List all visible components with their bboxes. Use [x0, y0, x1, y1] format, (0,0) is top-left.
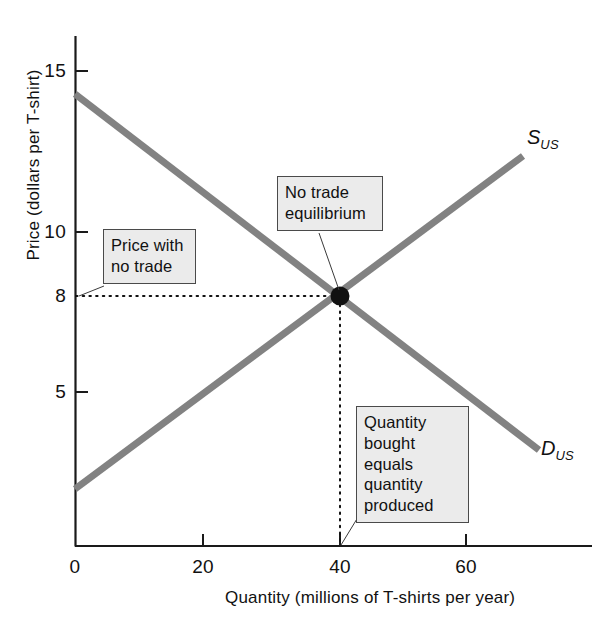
callout-price-with-no-trade: Price with no trade — [103, 229, 196, 284]
callout-price-no-trade-line2: no trade — [111, 256, 188, 277]
callout-qty-bought-line4: produced — [364, 495, 461, 516]
x-tick-label-20: 20 — [183, 556, 223, 578]
leader-line-price-no-trade — [79, 286, 104, 296]
demand-curve-label-sub: US — [555, 448, 573, 463]
callout-quantity-bought-equals-produced: Quantity bought equals quantity produced — [356, 406, 469, 523]
x-tick-label-0: 0 — [55, 556, 95, 578]
callout-price-no-trade-line1: Price with — [111, 235, 188, 256]
y-tick-label-8: 8 — [32, 285, 66, 307]
chart-canvas — [0, 0, 595, 617]
callout-no-trade-eq-line1: No trade — [285, 182, 375, 203]
supply-curve-label: SUS — [527, 126, 559, 152]
callout-qty-bought-line1: Quantity — [364, 412, 461, 433]
callout-no-trade-eq-line2: equilibrium — [285, 203, 375, 224]
callout-qty-bought-line2: bought equals — [364, 433, 461, 475]
callout-qty-bought-line3: quantity — [364, 474, 461, 495]
supply-curve-label-sub: US — [540, 137, 558, 152]
supply-curve-label-letter: S — [527, 126, 540, 148]
equilibrium-point-marker — [331, 287, 350, 306]
x-tick-label-60: 60 — [446, 556, 486, 578]
y-axis-title: Price (dollars per T-shirt) — [24, 48, 44, 283]
demand-curve-label-letter: D — [541, 437, 555, 459]
economics-supply-demand-figure: 15 10 8 5 0 20 40 60 Price (dollars per … — [0, 0, 595, 617]
x-axis-title: Quantity (millions of T-shirts per year) — [225, 588, 515, 608]
callout-no-trade-equilibrium: No trade equilibrium — [277, 176, 383, 231]
y-tick-label-5: 5 — [32, 381, 66, 403]
x-tick-label-40: 40 — [320, 556, 360, 578]
demand-curve-label: DUS — [541, 437, 574, 463]
